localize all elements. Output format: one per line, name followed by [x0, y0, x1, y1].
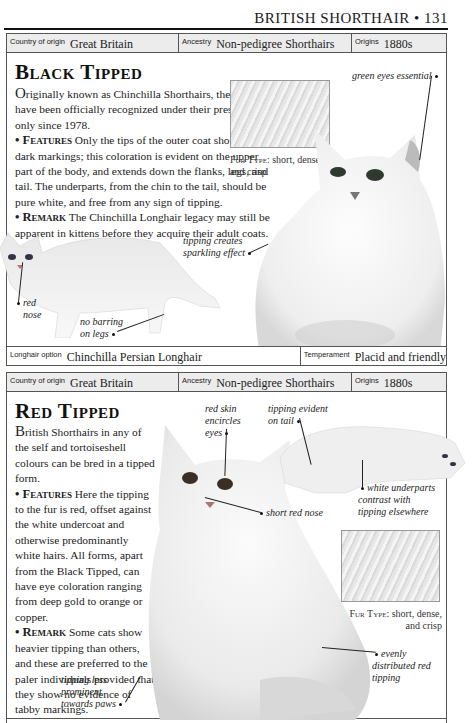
ancestry-value: Non-pedigree Shorthairs [216, 376, 334, 391]
ancestry-cell: Ancestry Non-pedigree Shorthairs [179, 34, 352, 52]
origins-cell: Origins 1880s [352, 34, 446, 52]
section-title: Black Tipped [15, 60, 142, 85]
callout-text: sparkling effect [183, 247, 245, 258]
callout-paws: tipping less prominent towards paws [61, 674, 125, 710]
callout-text: nose [14, 309, 41, 320]
callout-text: short red nose [266, 507, 323, 518]
origins-value: 1880s [384, 37, 413, 52]
country-label: Country of origin [10, 376, 65, 385]
drop-cap: O [15, 85, 26, 101]
callout-red-skin-eyes: red skin encircles eyes [205, 403, 241, 439]
callout-text: white underparts [367, 482, 435, 493]
remark-label: • Remark [15, 210, 66, 224]
callout-text: green eyes essential [352, 70, 432, 81]
callout-text: distributed red [372, 660, 431, 671]
callout-text: tipping [372, 672, 400, 683]
callout-short-red-nose: short red nose [257, 507, 323, 519]
leader-line [362, 460, 363, 488]
country-label: Country of origin [10, 37, 65, 46]
callout-text: tipping creates [183, 235, 242, 246]
longhair-option-cell: Longhair option Chinchilla Persian Longh… [7, 347, 301, 365]
drop-cap: B [15, 423, 25, 439]
ancestry-label: Ancestry [182, 37, 211, 46]
callout-text: prominent [61, 686, 102, 697]
fur-type-value: short, dense, and crisp [389, 608, 442, 631]
temperament-label: Temperament [304, 350, 350, 359]
section-title: Red Tipped [15, 399, 120, 424]
callout-text: tipping elsewhere [358, 506, 428, 517]
callout-text: eyes [205, 427, 222, 438]
callout-text: on legs [80, 328, 109, 339]
ancestry-cell: Ancestry Non-pedigree Shorthairs [179, 373, 352, 391]
callout-text: evenly [381, 648, 407, 659]
callout-white-underparts: white underparts contrast with tipping e… [358, 482, 435, 518]
callout-text: on tail [268, 415, 294, 426]
origins-cell: Origins 1880s [352, 373, 446, 391]
callout-sparkling-effect: tipping creates sparkling effect [183, 235, 254, 259]
callout-text: towards paws [61, 698, 116, 709]
country-value: Great Britain [70, 376, 133, 391]
country-of-origin-cell: Country of origin Great Britain [7, 373, 179, 391]
callout-text: encircles [205, 415, 241, 426]
features-label: • Features [15, 133, 72, 147]
black-tipped-cat-photo [250, 100, 450, 355]
callout-evenly-distributed: evenly distributed red tipping [372, 648, 431, 684]
origins-label: Origins [355, 376, 379, 385]
black-tipped-footer-bar: Longhair option Chinchilla Persian Longh… [6, 346, 447, 366]
callout-dot [119, 703, 122, 706]
origins-label: Origins [355, 37, 379, 46]
origins-value: 1880s [384, 376, 413, 391]
callout-dot [375, 653, 378, 656]
callout-text: contrast with [358, 494, 411, 505]
features-text: Here the tipping to the fur is red, offs… [15, 488, 151, 623]
ancestry-label: Ancestry [182, 376, 211, 385]
callout-text: red [23, 297, 36, 308]
running-head: BRITISH SHORTHAIR • 131 [254, 10, 448, 27]
callout-dot [435, 75, 438, 78]
callout-no-barring: no barring on legs [80, 316, 123, 340]
fur-type-label: Fur Type: [350, 608, 390, 619]
callout-text: tipping less [61, 674, 107, 685]
callout-green-eyes: green eyes essential [352, 70, 441, 82]
callout-text: no barring [80, 316, 123, 327]
features-label: • Features [15, 487, 72, 501]
fur-type-caption: Fur Type: short, dense, and crisp [340, 608, 442, 632]
callout-tail-tipping: tipping evident on tail [268, 403, 328, 427]
country-of-origin-cell: Country of origin Great Britain [7, 34, 179, 52]
temperament-cell: Temperament Placid and friendly [301, 347, 446, 365]
ancestry-value: Non-pedigree Shorthairs [216, 37, 334, 52]
callout-text: tipping evident [268, 403, 328, 414]
red-tipped-info-bar: Country of origin Great Britain Ancestry… [6, 372, 447, 392]
longhair-label: Longhair option [10, 350, 62, 359]
temperament-value: Placid and friendly [355, 350, 446, 365]
callout-dot [17, 302, 20, 305]
intro-text: ritish Shorthairs in any of the self and… [15, 426, 155, 484]
callout-text: red skin [205, 403, 237, 414]
country-value: Great Britain [70, 37, 133, 52]
fur-swatch-image [341, 530, 440, 602]
header-rule [4, 28, 448, 30]
black-tipped-info-bar: Country of origin Great Britain Ancestry… [6, 33, 447, 53]
callout-dot [112, 333, 115, 336]
remark-label: • Remark [15, 625, 66, 639]
longhair-value: Chinchilla Persian Longhair [67, 350, 202, 365]
